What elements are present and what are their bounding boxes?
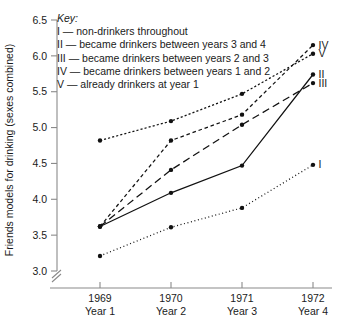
data-point [240, 123, 244, 127]
legend-item-iv: IV — became drinkers between years 1 and… [57, 65, 297, 78]
data-point [240, 112, 244, 116]
data-point [311, 43, 315, 47]
y-axis-title: Friends models for drinking (sexes combi… [3, 44, 15, 256]
x-tick-sublabel: Year 3 [227, 305, 257, 317]
y-tick-label: 3.5 [32, 229, 47, 241]
y-tick-label: 5.5 [32, 85, 47, 97]
x-axis-ticks: 1969Year 11970Year 21971Year 31972Year 4 [85, 282, 328, 317]
end-label-iii: III [319, 77, 328, 89]
data-point [240, 163, 244, 167]
legend-title: Key: [57, 12, 297, 25]
series-line-ii [100, 75, 313, 227]
y-tick-label: 6.5 [32, 14, 47, 26]
y-tick-label: 4.5 [32, 157, 47, 169]
end-label-i: I [319, 158, 322, 170]
legend: Key: I — non-drinkers throughout II — be… [57, 12, 297, 91]
data-point [169, 119, 173, 123]
x-tick-year: 1969 [88, 292, 112, 304]
x-tick-year: 1971 [230, 292, 254, 304]
legend-item-i: I — non-drinkers throughout [57, 25, 297, 38]
data-point [311, 81, 315, 85]
axis-break-icon [52, 270, 61, 282]
data-point [311, 163, 315, 167]
legend-item-iii: III — became drinkers between years 2 an… [57, 52, 297, 65]
data-point [311, 72, 315, 76]
legend-item-v: V — already drinkers at year 1 [57, 78, 297, 91]
end-label-v: V [319, 47, 326, 59]
x-tick-sublabel: Year 1 [85, 305, 115, 317]
y-axis-ticks: 3.03.54.04.55.05.56.06.5 [32, 14, 57, 277]
data-point [240, 92, 244, 96]
data-point [98, 224, 102, 228]
series-line-iii [100, 83, 313, 226]
y-tick-label: 6.0 [32, 50, 47, 62]
data-point [169, 225, 173, 229]
data-point [169, 168, 173, 172]
data-point [311, 52, 315, 56]
legend-item-ii: II — became drinkers between years 3 and… [57, 38, 297, 51]
y-tick-label: 3.0 [32, 265, 47, 277]
x-tick-year: 1972 [301, 292, 325, 304]
data-point [169, 191, 173, 195]
data-point [240, 206, 244, 210]
y-tick-label: 4.0 [32, 193, 47, 205]
x-tick-sublabel: Year 2 [156, 305, 186, 317]
chart-container: 3.03.54.04.55.05.56.06.5 1969Year 11970Y… [0, 0, 337, 319]
series-end-labels: IIIIIIIVV [319, 39, 329, 171]
data-point [169, 138, 173, 142]
y-tick-label: 5.0 [32, 121, 47, 133]
data-point [98, 138, 102, 142]
x-tick-sublabel: Year 4 [298, 305, 328, 317]
data-point [98, 254, 102, 258]
x-tick-year: 1970 [159, 292, 183, 304]
